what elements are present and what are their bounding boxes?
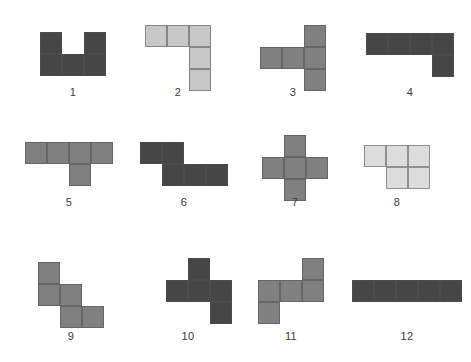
shape-number-label: 9 xyxy=(38,330,104,342)
shape-number-label: 8 xyxy=(364,196,430,208)
shape-cell xyxy=(374,280,396,302)
shape-cell xyxy=(91,142,113,164)
shape-cell xyxy=(262,157,284,179)
shape-cell xyxy=(210,280,232,302)
shape-cell xyxy=(210,302,232,324)
shape-cell xyxy=(258,302,280,324)
shape-cell xyxy=(69,164,91,186)
shape-cell xyxy=(162,164,184,186)
shape-cell xyxy=(386,167,408,189)
shape-cell xyxy=(304,47,326,69)
shape-cell xyxy=(302,280,324,302)
shape-cell xyxy=(69,142,91,164)
shape-cell xyxy=(440,280,462,302)
shape-cell xyxy=(284,157,306,179)
shape-cell xyxy=(410,33,432,55)
shape-number-label: 5 xyxy=(25,196,113,208)
shape-cell xyxy=(386,145,408,167)
shape-cell xyxy=(184,164,206,186)
shape-cell xyxy=(162,142,184,164)
shape-cell xyxy=(38,284,60,306)
shape-cell xyxy=(145,25,167,47)
shape-cell xyxy=(366,33,388,55)
shape-number-label: 12 xyxy=(352,330,462,342)
shape-cell xyxy=(62,54,84,76)
shape-cell xyxy=(306,157,328,179)
shape-cell xyxy=(60,284,82,306)
shape-cell xyxy=(47,142,69,164)
shape-cell xyxy=(82,306,104,328)
shape-cell xyxy=(302,258,324,280)
shape-cell xyxy=(189,25,211,47)
shape-cell xyxy=(284,135,306,157)
shape-cell xyxy=(60,306,82,328)
shape-cell xyxy=(260,47,282,69)
shape-cell xyxy=(84,32,106,54)
shape-cell xyxy=(166,280,188,302)
shape-cell xyxy=(206,164,228,186)
shape-number-label: 6 xyxy=(140,196,228,208)
shape-cell xyxy=(352,280,374,302)
shape-cell xyxy=(408,167,430,189)
shape-cell xyxy=(432,33,454,55)
shape-cell xyxy=(408,145,430,167)
shape-cell xyxy=(140,142,162,164)
shape-number-label: 3 xyxy=(260,86,326,98)
shape-cell xyxy=(364,145,386,167)
shape-cell xyxy=(25,142,47,164)
shape-number-label: 10 xyxy=(155,330,221,342)
shape-cell xyxy=(388,33,410,55)
shape-number-label: 4 xyxy=(366,86,454,98)
shapes-board: 123456789101112 xyxy=(0,0,471,362)
shape-cell xyxy=(40,54,62,76)
shape-cell xyxy=(282,47,304,69)
shape-cell xyxy=(189,47,211,69)
shape-cell xyxy=(280,280,302,302)
shape-number-label: 11 xyxy=(258,330,324,342)
shape-cell xyxy=(84,54,106,76)
shape-number-label: 7 xyxy=(262,196,328,208)
shape-cell xyxy=(167,25,189,47)
shape-cell xyxy=(258,280,280,302)
shape-cell xyxy=(418,280,440,302)
shape-cell xyxy=(38,262,60,284)
shape-number-label: 1 xyxy=(40,86,106,98)
shape-cell xyxy=(188,258,210,280)
shape-cell xyxy=(396,280,418,302)
shape-cell xyxy=(432,55,454,77)
shape-cell xyxy=(188,280,210,302)
shape-number-label: 2 xyxy=(145,86,211,98)
shape-cell xyxy=(304,25,326,47)
shape-cell xyxy=(40,32,62,54)
